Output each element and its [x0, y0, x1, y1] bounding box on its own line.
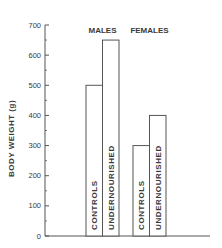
y-tick-label: 0 — [37, 232, 41, 241]
y-tick-label: 500 — [28, 81, 41, 90]
bar-chart: 0100200300400500600700 BODY WEIGHT (g) C… — [0, 0, 222, 248]
y-axis-label: BODY WEIGHT (g) — [7, 100, 16, 177]
y-tick-label: 600 — [28, 51, 41, 60]
bar-label: CONTROLS — [137, 180, 146, 230]
bars: CONTROLSUNDERNOURISHEDCONTROLSUNDERNOURI… — [86, 40, 166, 236]
group-label-females: FEMALES — [130, 26, 169, 35]
group-labels: MALESFEMALES — [89, 26, 170, 35]
y-tick-label: 400 — [28, 111, 41, 120]
y-tick-label: 700 — [28, 21, 41, 30]
bar-label: UNDERNOURISHED — [154, 145, 163, 230]
group-label-males: MALES — [89, 26, 118, 35]
bar-label: CONTROLS — [90, 180, 99, 230]
y-axis-title: BODY WEIGHT (g) — [7, 100, 16, 177]
y-tick-label: 300 — [28, 141, 41, 150]
y-tick-label: 100 — [28, 201, 41, 210]
bar-label: UNDERNOURISHED — [107, 145, 116, 230]
y-tick-label: 200 — [28, 171, 41, 180]
y-axis: 0100200300400500600700 — [28, 21, 49, 241]
